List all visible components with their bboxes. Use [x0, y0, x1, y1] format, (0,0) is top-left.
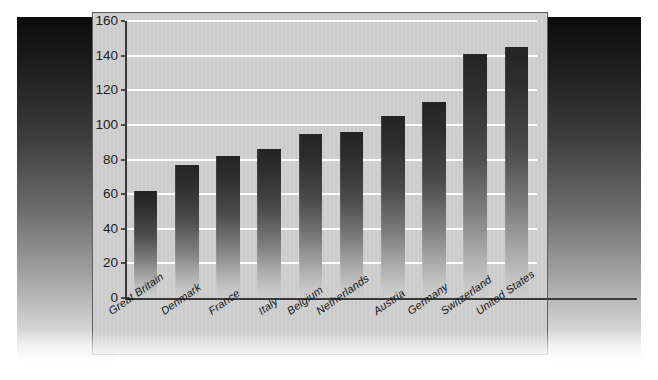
bar[interactable]: [422, 102, 446, 298]
y-axis-tick-label: 40: [103, 221, 118, 236]
bar-slot: [290, 21, 331, 298]
bar-series: [125, 21, 537, 298]
x-label-slot: Denmark: [166, 305, 207, 353]
x-label-slot: Great Britain: [125, 305, 166, 353]
x-label-slot: France: [207, 305, 248, 353]
bar-slot: [331, 21, 372, 298]
y-axis-tick-label: 120: [95, 82, 118, 97]
bar-slot: [496, 21, 537, 298]
y-axis-tick-label: 140: [95, 48, 118, 63]
x-axis-labels: Great BritainDenmarkFranceItalyBelgiumNe…: [125, 305, 537, 353]
y-axis-tick-label: 60: [103, 186, 118, 201]
bar-slot: [413, 21, 454, 298]
x-label-slot: Austria: [372, 305, 413, 353]
bar-slot: [249, 21, 290, 298]
bar-slot: [455, 21, 496, 298]
chart-panel: 020406080100120140160 Great BritainDenma…: [92, 12, 548, 355]
right-shadow-band: [545, 17, 641, 365]
bar[interactable]: [175, 165, 199, 298]
x-label-slot: Italy: [249, 305, 290, 353]
bar[interactable]: [299, 134, 323, 298]
bar-slot: [166, 21, 207, 298]
bar-slot: [372, 21, 413, 298]
y-axis-tick-label: 80: [103, 152, 118, 167]
y-axis-tick-label: 20: [103, 256, 118, 271]
bar-slot: [125, 21, 166, 298]
bar[interactable]: [463, 54, 487, 298]
plot-area: 020406080100120140160: [125, 21, 537, 298]
y-axis-tick-label: 100: [95, 117, 118, 132]
page-background: 020406080100120140160 Great BritainDenma…: [0, 0, 658, 380]
bar-slot: [207, 21, 248, 298]
x-label-slot: Switzerland: [455, 305, 496, 353]
bar[interactable]: [216, 156, 240, 298]
bar[interactable]: [381, 116, 405, 298]
bar[interactable]: [257, 149, 281, 298]
x-label-slot: Netherlands: [331, 305, 372, 353]
bar[interactable]: [505, 47, 529, 298]
y-axis-tick-label: 160: [95, 13, 118, 28]
x-label-slot: United States: [496, 305, 537, 353]
bar[interactable]: [340, 132, 364, 298]
